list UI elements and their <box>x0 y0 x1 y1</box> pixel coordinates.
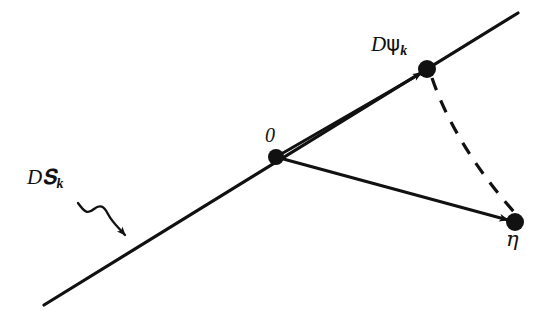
label-dpsi-prefix: D <box>371 32 386 56</box>
math-diagram-figure: D𝐒k Dψk 0 η <box>0 0 549 322</box>
origin-to-eta-vector <box>276 157 508 220</box>
label-dpsi-subscript: k <box>400 43 407 58</box>
label-dk-subscript: k <box>56 176 63 191</box>
diagram-canvas <box>0 0 549 322</box>
label-origin: 0 <box>265 125 275 145</box>
psi-to-eta-geodesic <box>432 78 514 212</box>
label-dpsi-symbol: ψ <box>386 32 400 56</box>
label-dk-prefix: D <box>27 165 42 189</box>
label-psi-point: Dψk <box>371 34 407 58</box>
node-dot-origin <box>268 149 284 165</box>
label-eta-point: η <box>506 229 519 250</box>
label-tangent-space-dk: D𝐒k <box>27 167 63 191</box>
node-dot-psi <box>418 60 436 78</box>
label-dk-symbol: 𝐒 <box>42 165 56 189</box>
origin-to-psi-vector <box>276 73 422 157</box>
squiggly-pointer-arrow <box>78 203 125 235</box>
label-eta-symbol: η <box>506 227 519 251</box>
